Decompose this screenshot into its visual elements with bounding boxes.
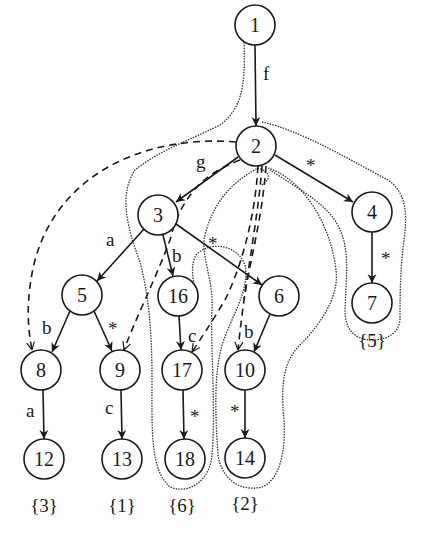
node-16: 16 [158, 276, 198, 316]
node-7: 7 [352, 283, 392, 323]
edge-label-5-8: b [42, 317, 52, 338]
node-5: 5 [62, 275, 102, 315]
dashed-edge-2-8 [28, 141, 236, 350]
node-8: 8 [21, 350, 61, 390]
node-2: 2 [236, 126, 276, 166]
edge-label-17-18: * [190, 406, 200, 427]
node-12: 12 [24, 439, 64, 479]
svg-text:6: 6 [274, 285, 284, 307]
edge-label-2-3: g [196, 151, 206, 172]
node-14: 14 [225, 438, 265, 478]
svg-text:5: 5 [77, 284, 87, 306]
set-labels: {3} {1} {6} {2} {5} [30, 330, 386, 516]
svg-text:9: 9 [115, 359, 125, 381]
edge-17-18 [183, 390, 184, 439]
set-label-6: {6} [168, 495, 196, 516]
edge-label-3-16: b [172, 245, 182, 266]
svg-text:13: 13 [112, 448, 132, 470]
dashed-edge-2-9 [124, 160, 240, 350]
node-9: 9 [100, 350, 140, 390]
edge-label-3-5: a [106, 229, 115, 250]
region-outlines [126, 42, 406, 489]
edge-label-2-4: * [306, 155, 316, 176]
edge-label-1-2: f [263, 63, 270, 84]
node-17: 17 [162, 350, 202, 390]
edge-8-12 [43, 390, 44, 439]
node-6: 6 [259, 276, 299, 316]
svg-text:18: 18 [175, 448, 195, 470]
node-13: 13 [102, 439, 142, 479]
edge-label-5-9: * [108, 318, 118, 339]
set-label-3: {3} [30, 495, 58, 516]
svg-text:8: 8 [36, 359, 46, 381]
svg-text:7: 7 [367, 292, 377, 314]
svg-text:2: 2 [251, 135, 261, 157]
svg-text:1: 1 [250, 14, 260, 36]
edge-label-16-17: c [188, 325, 196, 346]
edge-3-6 [176, 224, 262, 285]
edge-9-13 [121, 390, 122, 439]
edge-3-5 [97, 229, 144, 281]
svg-text:17: 17 [172, 359, 192, 381]
tree-diagram: f g * a b * * b * c b a c * * 1 2 3 4 5 … [0, 0, 426, 543]
edge-labels: f g * a b * * b * c b a c * * [26, 63, 391, 427]
edge-2-3 [176, 157, 238, 202]
svg-text:4: 4 [367, 201, 377, 223]
edge-5-8 [52, 311, 70, 352]
node-18: 18 [165, 439, 205, 479]
edge-label-3-6: * [208, 233, 218, 254]
nodes: 1 2 3 4 5 16 6 7 8 9 17 10 12 13 18 14 [21, 5, 392, 479]
svg-text:12: 12 [34, 448, 54, 470]
edge-6-10 [254, 314, 270, 352]
edge-1-2 [255, 45, 256, 126]
set-label-2: {2} [231, 493, 259, 514]
svg-text:3: 3 [153, 204, 163, 226]
dashed-edges [28, 141, 266, 352]
edge-label-4-7: * [381, 248, 391, 269]
edge-label-8-12: a [26, 400, 35, 421]
edge-label-10-14: * [230, 401, 240, 422]
node-3: 3 [138, 195, 178, 235]
edge-label-9-13: c [105, 397, 113, 418]
node-1: 1 [235, 5, 275, 45]
svg-text:16: 16 [168, 285, 188, 307]
svg-text:14: 14 [235, 447, 255, 469]
set-label-5: {5} [358, 330, 386, 351]
node-4: 4 [352, 192, 392, 232]
set-label-1: {1} [108, 495, 136, 516]
edge-16-17 [179, 316, 181, 350]
edge-label-6-10: b [244, 321, 254, 342]
svg-text:10: 10 [235, 359, 255, 381]
node-10: 10 [225, 350, 265, 390]
